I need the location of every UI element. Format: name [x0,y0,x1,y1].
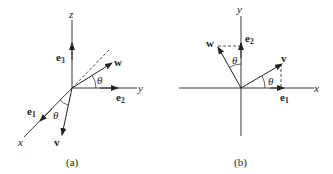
caption-b: (b) [234,156,247,169]
x-axis-label: x [313,82,319,94]
y-axis-label: y [236,3,242,15]
e3-label: e3 [56,51,65,65]
caption-a: (a) [66,156,79,169]
e1-label: e1 [280,91,289,105]
x-axis-label: x [17,136,23,148]
angle-arc-v [60,100,68,105]
theta-label-v: θ [268,75,274,87]
theta-label-w: θ [97,74,103,86]
e1-arrow [40,109,52,121]
theta-label-w: θ [232,54,238,66]
angle-arc-w [92,75,96,88]
e1-label: e1 [27,105,36,119]
vector-v-label: v [281,52,287,64]
angle-arc-v [262,76,265,88]
e2-label: e2 [116,91,125,105]
z-axis-label: z [68,8,74,20]
theta-label-v: θ [53,109,59,121]
dashed-line [72,50,109,88]
y-axis-label: y [137,82,143,94]
diagram-canvas: z y x e3 e2 e1 w v θ θ (a) y x e2 e1 v [0,0,333,174]
vector-w [218,47,241,88]
figure-b: y x e2 e1 v w θ θ (b) [179,3,319,169]
vector-v-label: v [54,136,60,148]
vector-w-label: w [206,37,214,49]
e2-label: e2 [245,32,254,46]
vector-v [241,64,282,88]
vector-v [62,88,72,135]
figure-a: z y x e3 e2 e1 w v θ θ (a) [17,8,143,169]
vector-w-label: w [114,56,122,68]
